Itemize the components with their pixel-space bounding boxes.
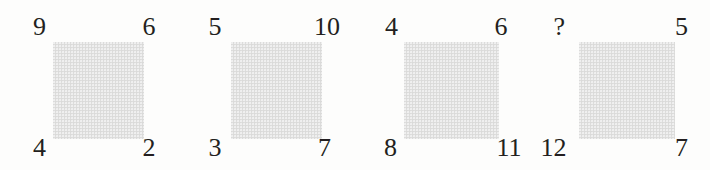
panel-2-top-left-number: 5 xyxy=(209,14,222,40)
panel-2-bottom-right-number: 7 xyxy=(318,135,331,161)
panel-3-top-right-number: 6 xyxy=(495,14,508,40)
panel-3-top-left-number: 4 xyxy=(385,14,398,40)
panel-2-bottom-left-number: 3 xyxy=(209,135,222,161)
panel-2-top-right-number: 10 xyxy=(314,14,340,40)
panel-3-gray-square xyxy=(404,42,499,139)
puzzle-panel-3: 4 6 8 11 xyxy=(355,0,533,170)
panel-1-top-right-number: 6 xyxy=(143,14,156,40)
panel-4-bottom-left-number: 12 xyxy=(541,135,567,161)
panel-1-bottom-left-number: 4 xyxy=(33,135,46,161)
panel-4-gray-square xyxy=(579,42,675,139)
number-square-puzzle-row: 9 6 4 2 5 10 3 7 4 6 8 11 ? 5 12 7 xyxy=(0,0,710,170)
panel-4-bottom-right-number: 7 xyxy=(675,135,688,161)
panel-4-top-right-number: 5 xyxy=(675,14,688,40)
panel-1-bottom-right-number: 2 xyxy=(143,135,156,161)
puzzle-panel-1: 9 6 4 2 xyxy=(0,0,178,170)
panel-1-top-left-number: 9 xyxy=(33,14,46,40)
panel-3-bottom-left-number: 8 xyxy=(384,135,397,161)
panel-3-bottom-right-number: 11 xyxy=(496,135,521,161)
puzzle-panel-2: 5 10 3 7 xyxy=(178,0,356,170)
panel-1-gray-square xyxy=(53,42,144,139)
puzzle-panel-4: ? 5 12 7 xyxy=(533,0,710,170)
panel-4-missing-value-question-mark: ? xyxy=(554,14,566,40)
panel-2-gray-square xyxy=(231,42,322,139)
